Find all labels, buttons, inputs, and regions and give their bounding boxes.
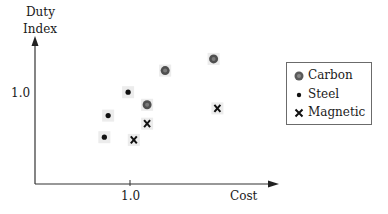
legend-item-steel: Steel — [287, 86, 373, 104]
legend: Carbon Steel Magnetic — [286, 62, 372, 125]
y-tick-label: 1.0 — [11, 87, 30, 100]
y-axis-arrow-icon — [32, 36, 39, 46]
data-points — [98, 53, 223, 146]
legend-item-magnetic: Magnetic — [287, 104, 373, 122]
y-axis-title-line2: Index — [23, 23, 57, 36]
steel-point — [102, 135, 107, 140]
steel-point — [106, 113, 111, 118]
carbon-point — [143, 100, 152, 109]
steel-point — [126, 90, 131, 95]
legend-label-magnetic: Magnetic — [308, 105, 365, 120]
legend-label-steel: Steel — [308, 87, 339, 102]
steel-marker-icon — [293, 89, 305, 101]
carbon-marker-icon — [293, 70, 305, 82]
y-axis-title-line1: Duty — [26, 6, 55, 19]
x-axis-title: Cost — [230, 190, 257, 203]
carbon-point — [161, 66, 170, 75]
carbon-point — [209, 54, 218, 63]
magnetic-marker-icon — [293, 107, 305, 119]
x-axis-arrow-icon — [268, 181, 279, 188]
legend-label-carbon: Carbon — [308, 68, 353, 83]
legend-item-carbon: Carbon — [287, 67, 373, 85]
x-tick-label: 1.0 — [121, 190, 140, 203]
